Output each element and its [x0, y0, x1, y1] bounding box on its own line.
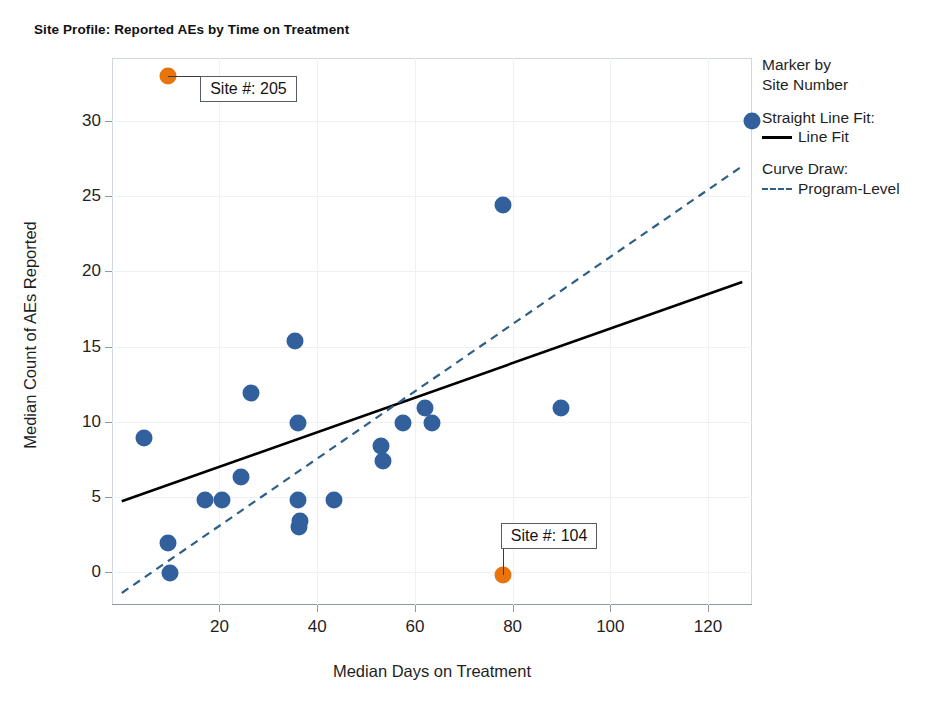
- fit-line-line-fit: [122, 282, 742, 501]
- x-tick-label: 20: [210, 617, 229, 637]
- plot-area: 051015202530 20406080100120 Site #: 205S…: [112, 58, 752, 605]
- data-point-marker[interactable]: [287, 332, 304, 349]
- x-tick-mark: [415, 605, 416, 612]
- dashed-line-swatch-icon: [762, 188, 792, 190]
- y-tick-label: 20: [82, 261, 101, 281]
- legend-curve-label: Program-Level: [798, 180, 900, 198]
- y-tick-mark: [105, 422, 112, 423]
- y-tick-label: 30: [82, 111, 101, 131]
- x-tick-mark: [708, 605, 709, 612]
- x-tick-mark: [317, 605, 318, 612]
- y-tick-mark: [105, 271, 112, 272]
- y-tick-label: 10: [82, 412, 101, 432]
- legend-marker-heading-line1: Marker by: [762, 55, 942, 75]
- y-tick-label: 25: [82, 186, 101, 206]
- legend-curve-block: Curve Draw: Program-Level: [762, 159, 942, 198]
- data-point-marker[interactable]: [243, 385, 260, 402]
- data-point-marker[interactable]: [161, 565, 178, 582]
- legend-linefit-row[interactable]: Line Fit: [762, 128, 942, 146]
- data-point-marker[interactable]: [233, 469, 250, 486]
- legend-linefit-heading: Straight Line Fit:: [762, 108, 942, 128]
- data-point-marker[interactable]: [553, 400, 570, 417]
- data-point-marker[interactable]: [135, 430, 152, 447]
- y-tick-mark: [105, 347, 112, 348]
- x-axis-title: Median Days on Treatment: [333, 662, 531, 681]
- data-point-marker[interactable]: [213, 491, 230, 508]
- data-point-marker[interactable]: [292, 512, 309, 529]
- x-tick-mark: [610, 605, 611, 612]
- data-point-marker[interactable]: [375, 452, 392, 469]
- y-tick-label: 5: [92, 487, 101, 507]
- chart-title: Site Profile: Reported AEs by Time on Tr…: [34, 22, 349, 37]
- legend-marker-block: Marker by Site Number: [762, 55, 942, 95]
- data-point-marker[interactable]: [494, 197, 511, 214]
- scatter-chart: Site Profile: Reported AEs by Time on Tr…: [0, 0, 948, 720]
- chart-legend: Marker by Site Number Straight Line Fit:…: [762, 55, 942, 211]
- legend-linefit-block: Straight Line Fit: Line Fit: [762, 108, 942, 147]
- legend-curve-heading: Curve Draw:: [762, 159, 942, 179]
- data-point-marker[interactable]: [744, 113, 761, 130]
- legend-curve-row[interactable]: Program-Level: [762, 180, 942, 198]
- data-point-marker[interactable]: [394, 415, 411, 432]
- annotation-callout[interactable]: Site #: 205: [200, 76, 297, 102]
- legend-marker-heading-line2: Site Number: [762, 75, 942, 95]
- x-tick-label: 80: [503, 617, 522, 637]
- fit-line-program-level: [122, 166, 742, 593]
- x-tick-label: 120: [694, 617, 722, 637]
- x-tick-label: 100: [596, 617, 624, 637]
- data-point-marker[interactable]: [196, 491, 213, 508]
- y-tick-mark: [105, 572, 112, 573]
- y-tick-label: 15: [82, 337, 101, 357]
- data-point-marker[interactable]: [424, 415, 441, 432]
- x-tick-mark: [513, 605, 514, 612]
- data-point-marker[interactable]: [160, 535, 177, 552]
- x-tick-mark: [219, 605, 220, 612]
- y-tick-mark: [105, 497, 112, 498]
- data-point-marker[interactable]: [326, 491, 343, 508]
- x-tick-label: 40: [308, 617, 327, 637]
- annotation-callout[interactable]: Site #: 104: [501, 523, 598, 549]
- y-tick-mark: [105, 196, 112, 197]
- x-tick-label: 60: [405, 617, 424, 637]
- data-point-marker[interactable]: [289, 491, 306, 508]
- data-point-marker[interactable]: [289, 415, 306, 432]
- y-tick-mark: [105, 121, 112, 122]
- fit-lines: [112, 58, 752, 605]
- y-tick-label: 0: [92, 562, 101, 582]
- annotation-leader-line: [168, 76, 200, 77]
- y-axis-title: Median Count of AEs Reported: [21, 221, 40, 448]
- legend-linefit-label: Line Fit: [798, 128, 849, 146]
- solid-line-swatch-icon: [762, 136, 792, 139]
